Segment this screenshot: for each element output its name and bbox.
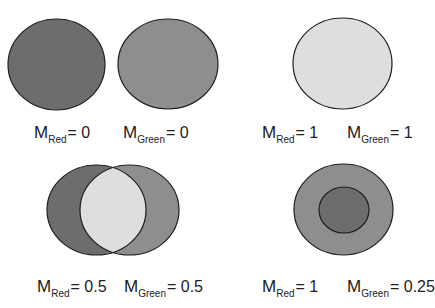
- overlap-circle: [293, 18, 392, 109]
- m-green-label: MGreen= 0.5: [124, 278, 203, 299]
- panel-top-left: [8, 19, 218, 110]
- m-red-label: MRed= 1: [262, 278, 318, 299]
- m-red-label: MRed= 0: [34, 124, 90, 145]
- panel-bottom-right: [294, 164, 393, 255]
- red-channel-circle: [8, 19, 105, 110]
- panel-bottom-left: [47, 165, 179, 255]
- m-red-label: MRed= 1: [262, 124, 318, 145]
- m-green-label: MGreen= 0: [123, 124, 189, 145]
- panel-top-right: [293, 18, 392, 109]
- m-red-label: MRed= 0.5: [37, 278, 107, 299]
- red-channel-circle: [319, 187, 369, 233]
- m-green-label: MGreen= 0.25: [347, 278, 435, 299]
- m-green-label: MGreen= 1: [347, 124, 413, 145]
- green-channel-circle: [118, 19, 218, 109]
